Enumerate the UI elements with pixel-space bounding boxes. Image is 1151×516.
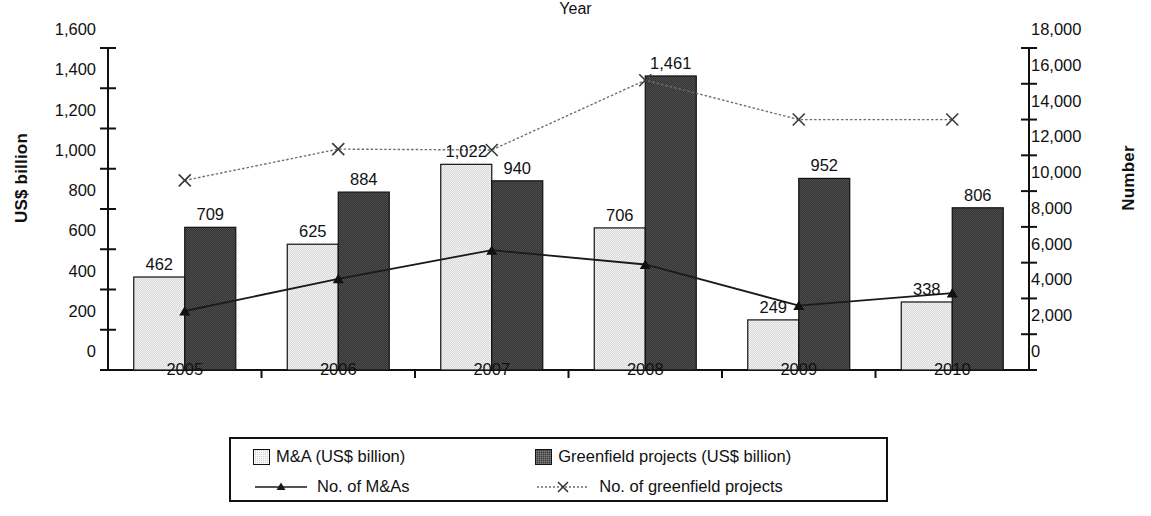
legend-item-greenfield-bar[interactable]: Greenfield projects (US$ billion) (519, 441, 886, 472)
x-line-swatch-icon (535, 479, 591, 495)
marker-x-2006 (332, 143, 344, 155)
x-axis-title: Year (0, 0, 1151, 18)
bar-2007-s0 (441, 164, 492, 370)
marker-x-2005 (179, 174, 191, 186)
y-left-tick-1200: 1,200 (10, 102, 96, 119)
y-right-tick-16000: 16,000 (1031, 57, 1081, 74)
y-right-tick-10000: 10,000 (1031, 164, 1081, 181)
legend-item-ma-line[interactable]: No. of M&As (231, 471, 519, 502)
bar-2005-s0 (134, 277, 185, 370)
bar-label-2008-s0: 706 (606, 206, 634, 224)
marker-x-2010 (946, 114, 958, 126)
y-right-tick-8000: 8,000 (1031, 200, 1072, 217)
legend-label-ma-line: No. of M&As (317, 477, 410, 496)
x-tick-2008: 2008 (585, 360, 705, 379)
legend-label-ma-bar: M&A (US$ billion) (276, 447, 405, 466)
y-left-tick-1600: 1,600 (10, 21, 96, 38)
bar-label-2010-s1: 806 (964, 186, 992, 204)
y-right-tick-4000: 4,000 (1031, 271, 1072, 288)
bar-2010-s1 (952, 208, 1003, 370)
y-left-tick-1000: 1,000 (10, 142, 96, 159)
legend-label-greenfield-bar: Greenfield projects (US$ billion) (558, 447, 791, 466)
bar-2008-s0 (594, 228, 645, 370)
bar-label-2010-s0: 338 (913, 280, 941, 298)
legend-label-greenfield-line: No. of greenfield projects (599, 477, 782, 496)
legend-row-1: M&A (US$ billion) Greenfield projects (U… (231, 441, 886, 472)
y-left-tick-600: 600 (10, 222, 96, 239)
bar-label-2005-s0: 462 (145, 255, 173, 273)
bar-label-2007-s1: 940 (503, 159, 531, 177)
x-tick-2009: 2009 (739, 360, 859, 379)
y-axis-left-title: US$ billion (12, 118, 32, 238)
bar-2008-s1 (645, 76, 696, 370)
bar-2006-s1 (338, 192, 389, 370)
y-left-tick-200: 200 (10, 303, 96, 320)
y-axis-right-title: Number (1119, 118, 1139, 238)
bar-2009-s1 (799, 178, 850, 370)
y-left-tick-1400: 1,400 (10, 61, 96, 78)
y-right-tick-0: 0 (1031, 343, 1040, 360)
y-right-tick-2000: 2,000 (1031, 307, 1072, 324)
triangle-line-swatch-icon (253, 479, 309, 495)
bar-label-2005-s1: 709 (196, 205, 224, 223)
legend-item-greenfield-line[interactable]: No. of greenfield projects (519, 471, 886, 502)
legend-item-ma-bar[interactable]: M&A (US$ billion) (231, 441, 519, 472)
x-tick-2010: 2010 (892, 360, 1012, 379)
chart-legend: M&A (US$ billion) Greenfield projects (U… (229, 437, 888, 502)
dark-square-swatch-icon (535, 449, 552, 465)
x-tick-2005: 2005 (125, 360, 245, 379)
y-right-tick-14000: 14,000 (1031, 93, 1081, 110)
legend-row-2: No. of M&As No. of greenfield projects (231, 471, 886, 502)
x-tick-2007: 2007 (432, 360, 552, 379)
bar-2007-s1 (492, 181, 543, 370)
y-right-tick-18000: 18,000 (1031, 21, 1081, 38)
bar-label-2007-s0: 1,022 (446, 142, 487, 160)
y-right-tick-6000: 6,000 (1031, 236, 1072, 253)
light-square-swatch-icon (253, 449, 270, 465)
y-right-tick-12000: 12,000 (1031, 128, 1081, 145)
bar-value-labels: 4626251,0227062493387098849401,461952806 (145, 54, 991, 316)
y-left-tick-800: 800 (10, 182, 96, 199)
bar-label-2006-s0: 625 (299, 222, 327, 240)
y-left-tick-0: 0 (10, 343, 96, 360)
y-left-tick-400: 400 (10, 263, 96, 280)
chart-container: US$ billion Number Year 02004006008001,0… (0, 0, 1151, 516)
bar-label-2009-s0: 249 (759, 298, 787, 316)
bar-2005-s1 (185, 227, 236, 370)
axes-layer (100, 48, 1037, 378)
bar-label-2008-s1: 1,461 (650, 54, 691, 72)
bar-label-2009-s1: 952 (810, 156, 838, 174)
marker-x-2007 (486, 144, 498, 156)
bar-2006-s0 (287, 244, 338, 370)
x-tick-2006: 2006 (278, 360, 398, 379)
bar-label-2006-s1: 884 (350, 170, 378, 188)
